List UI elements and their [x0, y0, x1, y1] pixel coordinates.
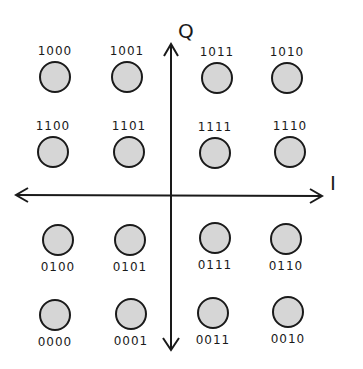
point-circle: [198, 298, 228, 328]
point-circle: [202, 63, 232, 93]
constellation-point: 1010: [270, 45, 305, 93]
i-axis: [16, 195, 322, 196]
constellation-point: 0101: [113, 225, 148, 274]
point-label: 1111: [198, 120, 233, 134]
constellation-point: 0011: [196, 298, 231, 347]
constellation-point: 1011: [200, 45, 235, 93]
point-label: 1011: [200, 45, 235, 59]
point-label: 0001: [114, 334, 149, 348]
constellation-point: 0111: [198, 223, 233, 272]
q-axis-label: Q: [178, 19, 194, 43]
point-label: 1110: [273, 119, 308, 133]
i-axis-label: I: [330, 171, 336, 195]
point-label: 1101: [112, 119, 147, 133]
constellation-point: 0001: [114, 299, 149, 348]
constellation-point: 1100: [36, 119, 71, 167]
constellation-point: 0100: [41, 225, 76, 274]
point-circle: [116, 299, 146, 329]
point-label: 0011: [196, 333, 231, 347]
constellation-point: 1000: [38, 44, 73, 92]
point-label: 0010: [271, 332, 306, 346]
constellation-point: 1110: [273, 119, 308, 167]
point-circle: [200, 138, 230, 168]
point-label: 0111: [198, 258, 233, 272]
constellation-point: 1111: [198, 120, 233, 168]
point-circle: [275, 137, 305, 167]
constellation-point: 0110: [269, 224, 304, 273]
point-label: 1100: [36, 119, 71, 133]
point-circle: [43, 225, 73, 255]
point-label: 0101: [113, 260, 148, 274]
point-circle: [112, 62, 142, 92]
point-circle: [40, 300, 70, 330]
point-circle: [115, 225, 145, 255]
constellation-point: 0000: [38, 300, 73, 349]
constellation-point: 0010: [271, 297, 306, 346]
point-circle: [114, 137, 144, 167]
point-label: 0100: [41, 260, 76, 274]
point-circle: [272, 63, 302, 93]
constellation-point: 1101: [112, 119, 147, 167]
point-label: 0110: [269, 259, 304, 273]
point-label: 1000: [38, 44, 73, 58]
point-circle: [40, 62, 70, 92]
point-circle: [273, 297, 303, 327]
point-circle: [271, 224, 301, 254]
constellation-point: 1001: [110, 44, 145, 92]
point-label: 1001: [110, 44, 145, 58]
point-circle: [38, 137, 68, 167]
constellation-diagram: Q I 100010011011101011001101111111100100…: [0, 0, 363, 369]
point-label: 0000: [38, 335, 73, 349]
point-label: 1010: [270, 45, 305, 59]
point-circle: [200, 223, 230, 253]
